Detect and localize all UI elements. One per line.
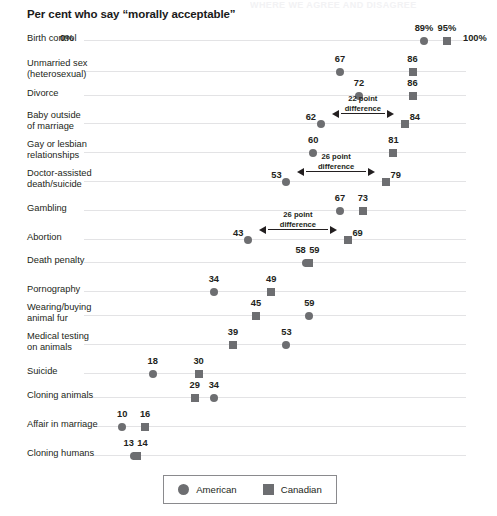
data-point-label-american: 13 [123,438,133,448]
category-label: Affair in marriage [27,419,111,430]
square-marker-icon [263,484,274,495]
data-point-label-american: 72 [354,78,364,88]
category-label: Baby outside of marriage [27,110,111,131]
data-point-american[interactable] [244,236,252,244]
data-point-canadian[interactable] [252,312,260,320]
data-point-label-american: 34 [209,274,219,284]
row-axis-line [84,40,466,41]
data-point-label-american: 67 [335,54,345,64]
data-point-canadian[interactable] [409,92,417,100]
arrow-right-icon [387,110,394,118]
data-point-label-canadian: 95% [438,23,457,33]
row-axis-line [84,181,466,182]
legend-label-american: American [196,484,237,495]
data-point-american[interactable] [336,68,344,76]
category-label: Cloning humans [27,448,111,459]
data-point-canadian[interactable] [389,149,397,157]
data-point-american[interactable] [282,178,290,186]
row-axis-line [84,344,466,345]
category-label: Unmarried sex (heterosexual) [27,58,111,79]
data-point-american[interactable] [210,288,218,296]
legend-label-canadian: Canadian [281,484,322,495]
arrow-left-icon [259,226,266,234]
row-axis-line [84,373,466,374]
data-point-label-canadian: 16 [140,409,150,419]
data-point-canadian[interactable] [443,37,451,45]
circle-marker-icon [178,484,189,495]
data-point-canadian[interactable] [191,394,199,402]
row-axis-line [84,397,466,398]
category-label: Pornography [27,284,111,295]
difference-annotation: 26 point difference [257,211,338,235]
category-label: Divorce [27,88,111,99]
category-label: Medical testing on animals [27,331,111,352]
data-point-american[interactable] [305,312,313,320]
data-point-canadian[interactable] [133,452,141,460]
data-point-label-american: 62 [306,112,316,122]
row-axis-line [84,262,466,263]
arrow-right-icon [368,168,375,176]
data-point-canadian[interactable] [359,207,367,215]
data-point-canadian[interactable] [409,68,417,76]
data-point-label-american: 53 [271,170,281,180]
data-point-label-american: 60 [308,135,318,145]
data-point-american[interactable] [210,394,218,402]
data-point-label-canadian: 59 [309,245,319,255]
arrow-left-icon [297,168,304,176]
category-label: Doctor-assisted death/suicide [27,168,111,189]
row-axis-line [84,152,466,153]
data-point-label-american: 59 [304,298,314,308]
dot-plot-chart: Birth control89%95%0%100%Unmarried sex (… [0,0,497,470]
axis-tick-max: 100% [463,33,487,43]
data-point-canadian[interactable] [195,370,203,378]
category-label: Abortion [27,232,111,243]
data-point-label-canadian: 86 [407,54,417,64]
difference-arrow-line [341,113,385,114]
data-point-american[interactable] [317,120,325,128]
data-point-label-american: 89% [415,23,434,33]
data-point-american[interactable] [420,37,428,45]
legend-item-american: American [178,484,237,495]
data-point-label-american: 34 [209,380,219,390]
difference-arrow-line [268,229,327,230]
row-axis-line [84,315,466,316]
data-point-label-canadian: 84 [410,112,420,122]
data-point-label-canadian: 79 [391,170,401,180]
data-point-label-canadian: 69 [352,228,362,238]
data-point-label-canadian: 73 [358,193,368,203]
data-point-label-canadian: 29 [190,380,200,390]
category-label: Gay or lesbian relationships [27,139,111,160]
data-point-label-canadian: 39 [228,327,238,337]
data-point-canadian[interactable] [382,178,390,186]
data-point-canadian[interactable] [401,120,409,128]
difference-annotation: 22 point difference [330,95,396,119]
row-axis-line [84,239,466,240]
data-point-label-american: 67 [335,193,345,203]
data-point-label-american: 43 [233,228,243,238]
data-point-american[interactable] [118,423,126,431]
data-point-canadian[interactable] [267,288,275,296]
category-label: Gambling [27,203,111,214]
data-point-canadian[interactable] [344,236,352,244]
data-point-label-american: 58 [295,245,305,255]
data-point-canadian[interactable] [305,259,313,267]
data-point-label-american: 18 [148,356,158,366]
data-point-label-american: 53 [281,327,291,337]
data-point-american[interactable] [282,341,290,349]
arrow-right-icon [330,226,337,234]
category-label: Death penalty [27,255,111,266]
data-point-label-canadian: 14 [137,438,147,448]
category-label: Cloning animals [27,390,111,401]
data-point-american[interactable] [149,370,157,378]
arrow-left-icon [332,110,339,118]
category-label: Wearing/buying animal fur [27,302,111,323]
data-point-canadian[interactable] [141,423,149,431]
difference-annotation-text: 26 point difference [257,210,338,229]
difference-annotation-text: 26 point difference [295,152,376,171]
difference-annotation: 26 point difference [295,153,376,177]
data-point-canadian[interactable] [229,341,237,349]
legend-item-canadian: Canadian [263,484,322,495]
data-point-label-canadian: 30 [193,356,203,366]
category-label: Suicide [27,366,111,377]
difference-arrow-line [306,171,365,172]
